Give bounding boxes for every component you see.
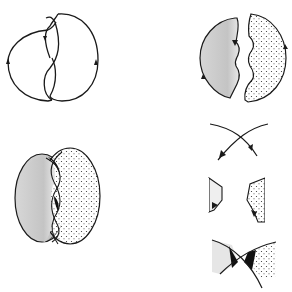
arrow-icon (43, 36, 47, 41)
crossing-detail (210, 124, 268, 160)
gray-disk (200, 18, 239, 98)
figure-canvas (0, 0, 292, 292)
arrow-icon (6, 58, 10, 64)
link-diagram (6, 14, 98, 101)
left-loop (8, 17, 59, 101)
band-detail (212, 240, 276, 288)
seifert-disks (200, 14, 288, 102)
gray-disk-edge (209, 178, 222, 212)
surface-with-bands (15, 148, 100, 244)
disk-edges-detail (208, 176, 266, 224)
dotted-disk (245, 14, 286, 102)
dotted-disk-edge (247, 178, 265, 222)
